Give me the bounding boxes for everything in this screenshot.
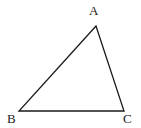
vertex-label-c: C [123,112,132,125]
geometry-figure: A B C [0,0,141,128]
triangle-diagram [0,0,141,128]
vertex-label-a: A [89,4,98,17]
vertex-label-b: B [7,112,16,125]
triangle-outline [19,26,124,111]
